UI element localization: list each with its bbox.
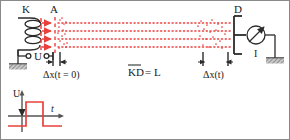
plot-x-axis-label: t bbox=[51, 103, 54, 114]
electron-beam-group bbox=[58, 23, 232, 47]
delta-x-zero-label: Δx(t = 0) bbox=[43, 69, 80, 81]
detector-support bbox=[203, 52, 228, 66]
voltage-source-label: U bbox=[34, 50, 42, 62]
ground-symbol-right bbox=[266, 58, 284, 64]
detector-label: D bbox=[234, 3, 242, 15]
figure-container: U I bbox=[0, 0, 290, 140]
current-label: I bbox=[254, 48, 257, 59]
distance-eq-label: = L bbox=[145, 66, 161, 78]
anode-label: A bbox=[50, 3, 58, 15]
plot-x-arrowhead bbox=[59, 114, 65, 119]
pulse-waveform bbox=[8, 102, 62, 126]
plot-y-arrowhead bbox=[20, 90, 25, 96]
detector-plate bbox=[234, 16, 246, 54]
distance-label-group: KD = L bbox=[128, 65, 161, 78]
ground-symbol-left bbox=[9, 50, 27, 70]
anode-support bbox=[53, 52, 60, 66]
cathode-label: K bbox=[22, 3, 30, 15]
ammeter bbox=[247, 26, 275, 58]
distance-pair-label: KD bbox=[128, 66, 144, 78]
plot-y-axis-label: U bbox=[13, 88, 21, 99]
electron-bunch-at-anode bbox=[57, 17, 68, 49]
voltage-pulse-plot: U t bbox=[8, 88, 64, 132]
delta-x-t-label: Δx(t) bbox=[203, 69, 224, 81]
beam-entry-arrows bbox=[42, 23, 51, 47]
